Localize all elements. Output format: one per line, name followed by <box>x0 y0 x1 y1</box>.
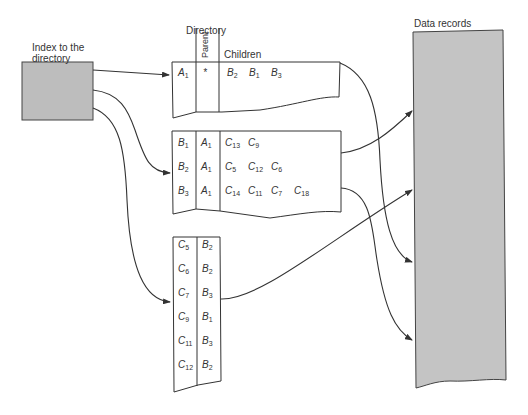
index-label-line2: directory <box>32 53 84 64</box>
cell-parent: B3 <box>202 335 213 347</box>
cell-key: B1 <box>178 137 189 149</box>
cell-parent: A1 <box>201 185 212 197</box>
cell-child: C5 <box>225 161 236 173</box>
index-label-line1: Index to the <box>32 42 84 53</box>
index-label: Index to the directory <box>32 42 84 64</box>
arrow-b1-to-data <box>341 111 412 153</box>
cell-key: C6 <box>178 263 189 275</box>
cell-child: C6 <box>271 161 282 173</box>
cell-parent: B1 <box>202 311 213 323</box>
cell-key: B3 <box>178 185 189 197</box>
cell-child: C13 <box>225 137 240 149</box>
cell-parent: * <box>203 67 207 78</box>
arrow-b3-to-data <box>341 188 412 340</box>
cell-child: C14 <box>225 185 240 197</box>
children-label: Children <box>224 49 261 60</box>
data-records-label: Data records <box>414 18 471 29</box>
cell-child: C18 <box>294 185 309 197</box>
arrow-a-to-data <box>340 63 412 262</box>
arrow-index-to-c <box>93 108 170 302</box>
cell-parent: B2 <box>202 359 213 371</box>
cell-key: C12 <box>178 359 193 371</box>
arrow-index-to-b <box>93 90 170 173</box>
arrow-index-to-a <box>93 70 169 75</box>
cell-child: C7 <box>271 185 282 197</box>
cell-key: B2 <box>178 161 189 173</box>
cell-key: C11 <box>178 335 193 347</box>
cell-key: A1 <box>178 67 189 79</box>
cell-parent: B2 <box>202 263 213 275</box>
cell-key: C7 <box>178 287 189 299</box>
cell-child: B1 <box>249 67 260 79</box>
cell-key: C9 <box>178 311 189 323</box>
parent-label: Parent <box>200 31 210 58</box>
cell-child: C12 <box>248 161 263 173</box>
cell-parent: A1 <box>201 161 212 173</box>
data-records-block <box>413 30 506 388</box>
cell-parent: B3 <box>202 287 213 299</box>
cell-child: B2 <box>227 67 238 79</box>
cell-key: C5 <box>178 239 189 251</box>
index-box <box>22 62 93 120</box>
cell-parent: A1 <box>201 137 212 149</box>
cell-child: C9 <box>248 137 259 149</box>
cell-child: C11 <box>248 185 263 197</box>
cell-parent: B2 <box>202 239 213 251</box>
cell-child: B3 <box>271 67 282 79</box>
